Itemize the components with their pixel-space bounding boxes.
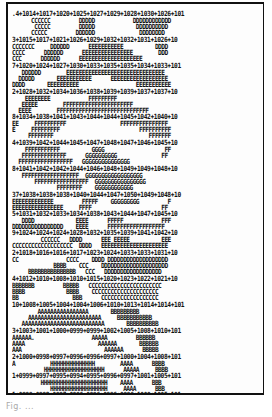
contour-plot: .4+1014+1017+1020+1025+1027+1029+1028+10… xyxy=(12,8,261,391)
figure-caption: Fig. ... xyxy=(6,402,34,411)
map-frame: .4+1014+1017+1020+1025+1027+1029+1028+10… xyxy=(6,2,264,395)
pressure-value-row: 1+0999+0998+0997+0996+0996+0996+0996+100… xyxy=(12,391,181,395)
